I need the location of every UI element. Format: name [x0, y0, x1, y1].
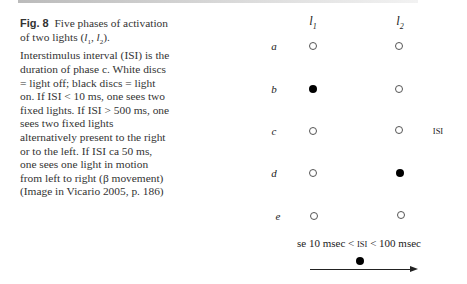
- row-label-c: c: [272, 125, 277, 137]
- column-header-l2: l2: [396, 14, 403, 31]
- disc-off-icon: [395, 85, 403, 93]
- moving-light-icon: [356, 257, 364, 265]
- row-label-d: d: [271, 167, 277, 179]
- isi-label: ISI: [433, 126, 443, 136]
- disc-off-icon: [310, 212, 318, 220]
- caption-text-rest: ). Interstimulus interval (ISI) is the d…: [20, 31, 169, 198]
- figure-caption: Fig. 8 Five phases of activation of two …: [20, 17, 170, 199]
- disc-off-icon: [397, 211, 405, 219]
- figure-label: Fig. 8: [20, 17, 49, 29]
- motion-arrow-line: [310, 269, 412, 270]
- disc-off-icon: [395, 126, 403, 134]
- row-label-b: b: [271, 83, 277, 95]
- disc-off-icon: [309, 42, 317, 50]
- disc-on-icon: [396, 169, 404, 177]
- disc-off-icon: [309, 169, 317, 177]
- column-header-l1: l1: [309, 14, 316, 31]
- top-rule: [18, 0, 418, 3]
- condition-label: se 10 msec < ISI < 100 msec: [297, 237, 421, 249]
- disc-on-icon: [309, 85, 317, 93]
- row-label-a: a: [271, 40, 277, 52]
- arrow-right-icon: [410, 266, 418, 272]
- disc-off-icon: [309, 127, 317, 135]
- disc-off-icon: [395, 42, 403, 50]
- row-label-e: e: [276, 210, 281, 222]
